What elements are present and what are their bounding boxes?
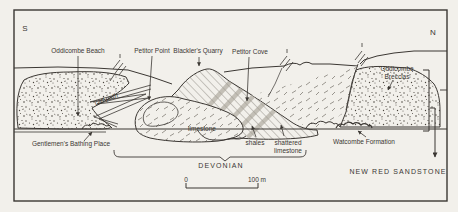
scale-bar <box>186 183 258 188</box>
fault-symbol-2 <box>280 49 293 71</box>
label-limestone: limestone <box>188 125 216 132</box>
section-drawing: S N Oddicombe Beach Petitor Point Blackl… <box>0 0 458 212</box>
label-north: N <box>430 28 436 37</box>
label-watcombe-formation: Watcombe Formation <box>333 138 395 145</box>
label-oddicombe-breccias-2: Breccias <box>385 73 411 80</box>
label-shales: shales <box>246 139 266 146</box>
label-gentlemens-bathing-place: Gentlemen's Bathing Place <box>32 140 111 148</box>
skyline-middle <box>224 62 358 72</box>
label-devonian: DEVONIAN <box>198 162 243 169</box>
arrow-petitor-point <box>149 56 152 100</box>
label-petitor-point: Petitor Point <box>134 47 170 54</box>
scale-end-label: 100 m <box>248 176 266 183</box>
label-shattered-1: shattered <box>274 139 301 146</box>
label-south: S <box>22 24 27 33</box>
label-blacklers-quarry: Blackler's Quarry <box>173 47 223 55</box>
label-petitor-cove: Petitor Cove <box>232 48 268 55</box>
geological-section-figure: S N Oddicombe Beach Petitor Point Blackl… <box>0 0 458 212</box>
skyline-right <box>360 51 447 64</box>
scale-start-label: 0 <box>184 176 188 183</box>
label-oddicombe-breccias-1: Oddicombe <box>380 65 414 72</box>
label-oddicombe-beach: Oddicombe Beach <box>51 47 105 54</box>
label-shattered-2: limestone <box>274 147 302 154</box>
label-new-red-sandstone: NEW RED SANDSTONE <box>349 168 446 175</box>
left-cliff-oddicombe-beach <box>17 72 129 129</box>
arrow-watcombe-formation <box>358 131 366 137</box>
